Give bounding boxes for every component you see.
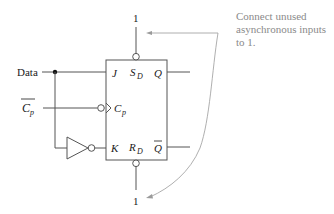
- pin-q: Q: [154, 67, 162, 79]
- svg-text:R: R: [128, 141, 136, 153]
- svg-text:Q: Q: [154, 142, 162, 154]
- svg-text:D: D: [136, 147, 143, 156]
- pin-sd: S D: [130, 66, 143, 81]
- pin-cp: C p: [114, 102, 126, 117]
- data-label: Data: [17, 66, 38, 78]
- annotation-note: Connect unused asynchronous inputs to 1.: [236, 10, 326, 48]
- svg-text:asynchronous inputs: asynchronous inputs: [236, 23, 326, 35]
- flip-flop-diagram: Data C p J K C p S D R D Q Q 1 1: [0, 0, 334, 214]
- svg-text:D: D: [136, 72, 143, 81]
- annotation-leader-top: [146, 31, 218, 35]
- inverter-bubble: [88, 145, 95, 152]
- pin-j: J: [112, 67, 118, 79]
- svg-text:to 1.: to 1.: [236, 36, 256, 48]
- svg-text:Connect unused: Connect unused: [236, 10, 307, 22]
- annotation-leader-bottom: [146, 33, 218, 199]
- pin-qbar: Q: [154, 141, 162, 154]
- pin-rd: R D: [128, 141, 143, 156]
- rd-inversion-bubble: [133, 160, 140, 167]
- top-constant-one: 1: [133, 12, 139, 24]
- svg-text:p: p: [29, 108, 34, 117]
- clock-label: C p: [21, 99, 35, 117]
- clock-edge-triangle-icon: [106, 103, 111, 113]
- inverter-branch-wire: [55, 72, 67, 148]
- svg-text:C: C: [114, 102, 122, 114]
- bottom-constant-one: 1: [133, 195, 139, 207]
- pin-k: K: [110, 142, 119, 154]
- svg-text:p: p: [121, 108, 126, 117]
- sd-inversion-bubble: [133, 53, 140, 60]
- inverter-icon: [67, 137, 88, 159]
- clock-inversion-bubble: [98, 105, 105, 112]
- svg-text:S: S: [130, 66, 136, 78]
